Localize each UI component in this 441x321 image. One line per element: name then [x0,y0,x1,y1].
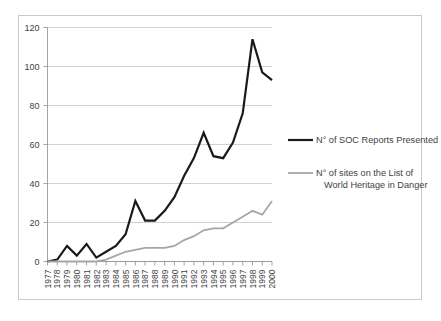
series-line-danger-list [48,201,273,261]
x-tick-label: 1988 [150,269,160,288]
x-tick-label: 1978 [52,269,62,288]
x-tick-label: 1990 [170,269,180,288]
legend-label: N° of SOC Reports Presented [316,135,438,145]
x-tick-label: 1997 [238,269,248,288]
x-tick-label: 1995 [218,269,228,288]
x-tick-label: 1977 [43,269,53,288]
x-tick-label: 1991 [179,269,189,288]
x-tick-label: 1996 [228,269,238,288]
line-chart: 020406080100120 197719781979198019811982… [0,0,441,321]
x-tick-label: 1983 [101,269,111,288]
x-tick-label: 2000 [267,269,277,288]
y-tick-label: 40 [29,179,39,189]
legend-label-line2: World Heritage in Danger [324,180,428,190]
y-tick-label: 120 [24,23,39,33]
y-tick-label: 100 [24,62,39,72]
x-tick-label: 1989 [160,269,170,288]
x-tick-label: 1998 [248,269,258,288]
chart-container: 020406080100120 197719781979198019811982… [0,0,441,321]
x-tick-label: 1981 [82,269,92,288]
x-tick-label: 1986 [131,269,141,288]
series-line-soc-reports [48,39,273,261]
x-tick-label: 1993 [199,269,209,288]
x-tick-label: 1987 [140,269,150,288]
x-axis-labels-group: 1977197819791980198119821983198419851986… [43,269,278,288]
y-axis-ticks-group: 020406080100120 [24,23,47,267]
x-tick-label: 1984 [111,269,121,288]
x-tick-label: 1980 [72,269,82,288]
x-tick-label: 1979 [62,269,72,288]
x-tick-label: 1994 [209,269,219,288]
y-tick-label: 80 [29,101,39,111]
y-tick-label: 20 [29,218,39,228]
legend: N° of SOC Reports PresentedN° of sites o… [288,135,438,190]
x-tick-label: 1999 [257,269,267,288]
x-tick-label: 1992 [189,269,199,288]
x-tick-label: 1982 [92,269,102,288]
y-tick-label: 60 [29,140,39,150]
y-tick-label: 0 [34,257,39,267]
series-group [48,39,273,261]
legend-label: N° of sites on the List of [316,168,414,178]
x-tick-label: 1985 [121,269,131,288]
gridlines-group [48,28,273,262]
